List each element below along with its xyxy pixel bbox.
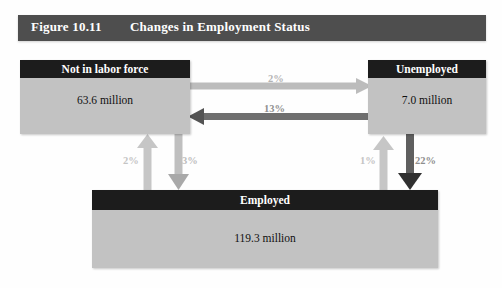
figure-page: Figure 10.11 Changes in Employment Statu… xyxy=(0,0,502,288)
node-unemployed: Unemployed 7.0 million xyxy=(368,60,486,134)
flow-label-nilf-to-employed: 3% xyxy=(182,155,198,166)
figure-title: Changes in Employment Status xyxy=(130,19,310,35)
node-unemployed-value: 7.0 million xyxy=(368,94,486,106)
flow-label-nilf-to-unemployed: 2% xyxy=(268,73,284,84)
node-employed: Employed 119.3 million xyxy=(92,190,438,268)
arrow-employed-to-nilf xyxy=(137,134,158,192)
figure-number: Figure 10.11 xyxy=(31,19,102,35)
node-unemployed-label: Unemployed xyxy=(368,60,486,78)
node-employed-label: Employed xyxy=(92,190,438,210)
flow-label-employed-to-unemployed: 1% xyxy=(360,155,376,166)
node-not-in-labor-force-value: 63.6 million xyxy=(20,94,190,106)
flow-label-unemployed-to-employed: 22% xyxy=(415,155,436,166)
node-not-in-labor-force-label: Not in labor force xyxy=(20,60,190,78)
flow-label-employed-to-nilf: 2% xyxy=(123,155,139,166)
node-employed-value: 119.3 million xyxy=(92,232,438,244)
flow-label-unemployed-to-nilf: 13% xyxy=(264,103,285,114)
figure-title-bar: Figure 10.11 Changes in Employment Statu… xyxy=(18,15,486,41)
arrow-employed-to-unemployed xyxy=(373,136,394,192)
node-not-in-labor-force: Not in labor force 63.6 million xyxy=(20,60,190,134)
